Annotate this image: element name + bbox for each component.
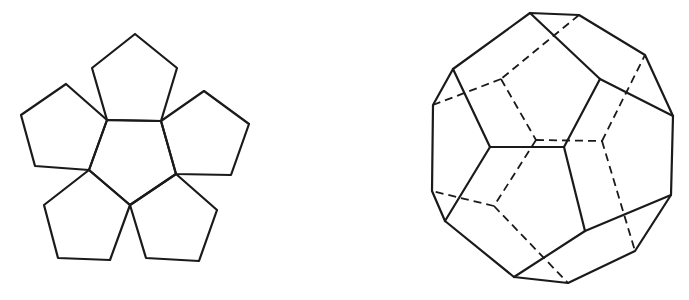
hidden-edge: [494, 140, 536, 206]
pentagon-right: [161, 91, 249, 175]
visible-edge: [564, 79, 600, 147]
pentagon-bottom-right: [130, 174, 217, 261]
pentagon-top: [92, 34, 177, 121]
visible-edges: [445, 13, 673, 277]
visible-edge: [445, 147, 490, 221]
dodecahedron-figure: [432, 13, 673, 283]
visible-edge: [564, 147, 585, 231]
visible-edge: [530, 13, 600, 79]
visible-edge: [585, 195, 671, 231]
hidden-edge: [494, 206, 568, 283]
visible-edge: [600, 79, 673, 116]
hidden-edge: [501, 79, 536, 140]
hidden-edge: [536, 140, 602, 141]
pentagon-net-figure: [21, 34, 249, 261]
hidden-edge: [433, 79, 501, 105]
pentagon-bottom-left: [44, 170, 130, 260]
hidden-edge: [602, 141, 635, 251]
visible-edge: [453, 69, 490, 147]
hidden-edges: [432, 15, 645, 283]
diagram-canvas: [0, 0, 689, 300]
pentagon-left: [21, 84, 107, 170]
